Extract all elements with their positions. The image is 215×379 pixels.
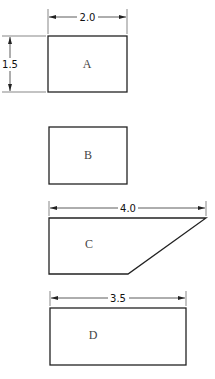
shape-a: A bbox=[48, 36, 127, 92]
dimension-a-height: 1.5 bbox=[0, 36, 46, 92]
dimension-a-height-value: 1.5 bbox=[2, 59, 18, 70]
dimension-d-width-value: 3.5 bbox=[110, 293, 126, 304]
shape-c-label: C bbox=[85, 237, 93, 251]
shape-d-rect bbox=[50, 308, 186, 365]
arrow-icon bbox=[50, 206, 57, 210]
dimension-c-width: 4.0 bbox=[49, 201, 206, 216]
dimension-d-width: 3.5 bbox=[50, 291, 186, 306]
arrow-icon bbox=[8, 37, 12, 44]
diagram-canvas: A 2.0 1.5 B C 4.0 bbox=[0, 0, 215, 379]
dimension-c-width-value: 4.0 bbox=[120, 203, 136, 214]
arrow-icon bbox=[51, 296, 58, 300]
shape-a-label: A bbox=[83, 57, 92, 71]
arrow-icon bbox=[178, 296, 185, 300]
arrow-icon bbox=[49, 15, 56, 19]
dimension-a-width: 2.0 bbox=[48, 9, 127, 34]
shape-d: D bbox=[50, 308, 186, 365]
shape-d-label: D bbox=[89, 328, 98, 342]
dimension-a-width-value: 2.0 bbox=[80, 12, 96, 23]
arrow-icon bbox=[8, 84, 12, 91]
arrow-icon bbox=[198, 206, 205, 210]
shape-c-polygon bbox=[49, 218, 206, 274]
shape-c: C bbox=[49, 218, 206, 274]
arrow-icon bbox=[119, 15, 126, 19]
shape-b: B bbox=[49, 127, 127, 184]
shape-b-label: B bbox=[84, 148, 92, 162]
